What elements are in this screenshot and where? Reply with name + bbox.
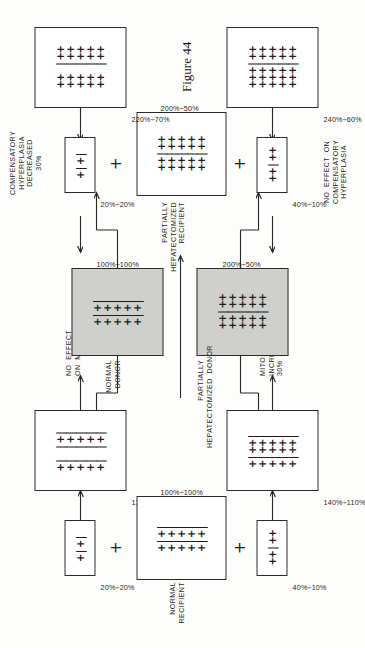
plus-mark: +: [112, 319, 122, 326]
plus-mark: +: [55, 75, 65, 82]
blank-mark: [85, 68, 95, 75]
minus-mark: |: [132, 298, 142, 305]
minus-mark: |: [85, 430, 95, 437]
grid-ph-recipient: ++|++++|++++|++++|++++|++: [137, 113, 225, 195]
minus-mark: |: [65, 61, 75, 68]
grid-row: ++|++: [156, 137, 166, 172]
minus-mark: |: [186, 524, 196, 531]
plus-mark: +: [237, 323, 247, 330]
grid-bar-top-right: +|+|: [65, 138, 94, 192]
plus-mark: +: [257, 323, 267, 330]
plus-mark: +: [267, 552, 277, 559]
grid-row: +++|++: [247, 47, 257, 89]
minus-mark: |: [92, 298, 102, 305]
grid-row: +|++|: [287, 433, 297, 468]
plus-mark: +: [55, 465, 65, 472]
plus-mark: +: [156, 144, 166, 151]
minus-mark: |: [95, 61, 105, 68]
minus-mark: |: [156, 524, 166, 531]
node-result-top-right[interactable]: ++ |++++ |++++ |++++ |++++ |++: [34, 27, 126, 108]
blank-mark: [75, 451, 85, 458]
plus-mark: +: [227, 295, 237, 302]
minus-mark: |: [287, 61, 297, 68]
grid-normal-donor: +|+|+|+|+|+|+|+|+|+|: [72, 269, 162, 355]
plus-mark: +: [287, 461, 297, 468]
plus-mark: +: [257, 302, 267, 309]
plus-mark: +: [166, 144, 176, 151]
node-normal-donor[interactable]: +|+|+|+|+|+|+|+|+|+|: [71, 268, 163, 356]
plus-mark: +: [237, 316, 247, 323]
minus-mark: |: [75, 444, 85, 451]
plus-mark: +: [65, 465, 75, 472]
grid-bar-top-left: +|+|: [65, 521, 94, 575]
plus-mark: +: [156, 545, 166, 552]
minus-mark: |: [166, 524, 176, 531]
join-plus-bottom-right: +: [232, 157, 247, 170]
ratio-result-top-right: 220%÷70%: [131, 115, 169, 124]
plus-mark: +: [186, 158, 196, 165]
plus-mark: +: [55, 54, 65, 61]
plus-mark: +: [247, 82, 257, 89]
minus-mark: |: [247, 433, 257, 440]
node-normal-recipient[interactable]: +|+|+|+|+|+|+|+|+|+|: [136, 496, 226, 580]
grid-row: ++|++: [176, 137, 186, 172]
grid-row: ++ |++: [85, 47, 95, 89]
plus-mark: +: [166, 165, 176, 172]
label-normal-recipient: NORMAL RECIPIENT: [168, 582, 185, 644]
grid-row: +|+|: [92, 298, 102, 326]
blank-mark: [95, 68, 105, 75]
figure-caption: Figure 44: [178, 42, 194, 92]
plus-mark: +: [267, 148, 277, 155]
minus-mark: |: [196, 524, 206, 531]
join-plus-bottom-left: +: [232, 541, 247, 554]
minus-mark: |: [277, 433, 287, 440]
minus-mark: |: [65, 458, 75, 465]
minus-mark: |: [217, 309, 227, 316]
minus-mark: |: [257, 454, 267, 461]
grid-bar-bottom-left: ++|++: [257, 521, 286, 575]
minus-mark: |: [75, 458, 85, 465]
plus-mark: +: [102, 305, 112, 312]
node-result-bottom-left[interactable]: +|++|+|++|+|++|+|++|+|++|: [226, 410, 318, 491]
plus-mark: +: [156, 137, 166, 144]
plus-mark: +: [247, 461, 257, 468]
plus-mark: +: [95, 47, 105, 54]
plus-mark: +: [95, 54, 105, 61]
plus-mark: +: [257, 440, 267, 447]
plus-mark: +: [287, 47, 297, 54]
plus-mark: +: [287, 75, 297, 82]
minus-mark: |: [156, 538, 166, 545]
node-result-bottom-right[interactable]: +++|+++++|+++++|+++++|+++++|++: [226, 27, 318, 108]
plus-mark: +: [102, 319, 112, 326]
node-ph-donor[interactable]: ++|++++|++++|++++|++++|++: [196, 268, 288, 356]
node-bar-bottom-left[interactable]: ++|++: [256, 520, 287, 576]
minus-mark: |: [75, 151, 85, 158]
node-bar-bottom-right[interactable]: ++|++: [256, 137, 287, 193]
plus-mark: +: [247, 447, 257, 454]
plus-mark: +: [65, 75, 75, 82]
plus-mark: +: [237, 295, 247, 302]
plus-mark: +: [196, 144, 206, 151]
node-ph-recipient[interactable]: ++|++++|++++|++++|++++|++: [136, 112, 226, 196]
plus-mark: +: [132, 319, 142, 326]
minus-mark: |: [85, 61, 95, 68]
grid-row: +++|++: [287, 47, 297, 89]
grid-row: ++|++: [237, 295, 247, 330]
grid-row: +| |+|: [95, 430, 105, 472]
plus-mark: +: [122, 319, 132, 326]
grid-row: +| |+|: [65, 430, 75, 472]
plus-mark: +: [85, 82, 95, 89]
ratio-result-bottom-left: 140%÷110%: [323, 498, 365, 507]
plus-mark: +: [186, 531, 196, 538]
label-ph-donor: PARTIALLY HEPATECTOMIZED DONOR: [196, 360, 213, 448]
plus-mark: +: [166, 137, 176, 144]
grid-row: +|++|: [277, 433, 287, 468]
plus-mark: +: [257, 47, 267, 54]
grid-row: +|+|: [166, 524, 176, 552]
node-bar-top-right[interactable]: +|+|: [64, 137, 95, 193]
ratio-normal-recipient: 100%÷100%: [160, 488, 203, 497]
node-bar-top-left[interactable]: +|+|: [64, 520, 95, 576]
minus-mark: |: [55, 430, 65, 437]
plus-mark: +: [55, 437, 65, 444]
